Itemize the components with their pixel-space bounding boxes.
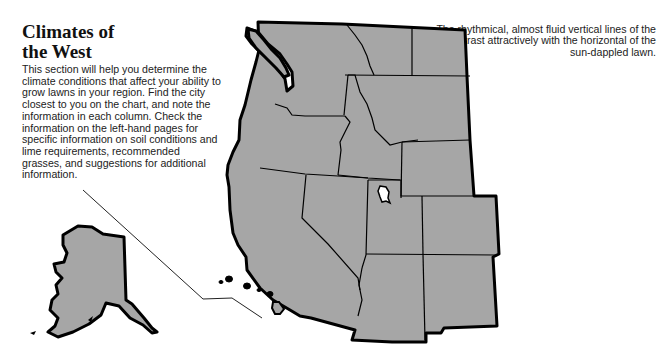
western-states-map xyxy=(0,0,664,348)
